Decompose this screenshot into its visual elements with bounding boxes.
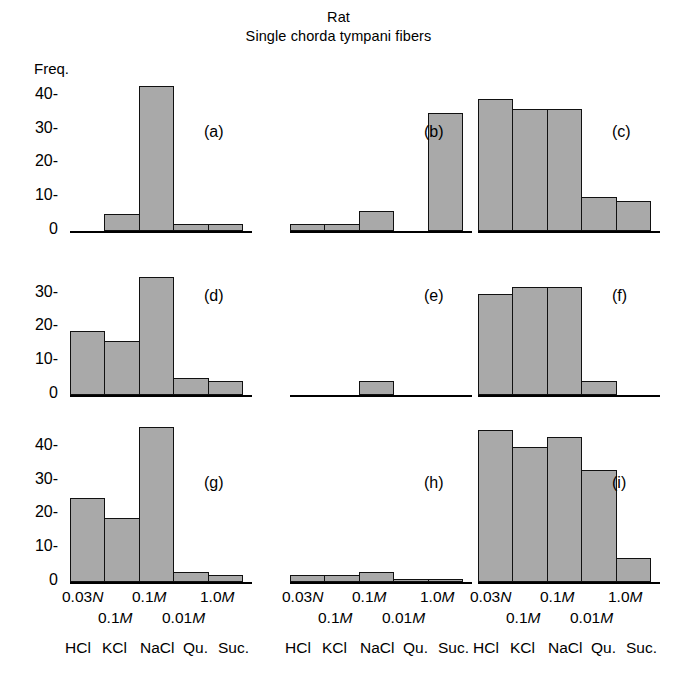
y-tick-0: 0 [16,220,58,238]
panel-a-bar-kcl [104,214,139,231]
y-tick-0: 0 [16,571,58,589]
x-stimulus-kcl: KCl [510,639,535,657]
panel-c-baseline [478,231,660,233]
title-line-subtitle: Single chorda tympani fibers [0,27,677,46]
panel-e-baseline [290,395,472,397]
panel-f-bar-hcl [478,294,513,395]
panel-i-label: (i) [612,474,626,492]
panel-g-bar-kcl [104,518,139,582]
panel-b-bar-hcl [290,224,325,231]
x-stimulus-hcl: HCl [65,639,91,657]
x-stimulus-suc: Suc. [438,639,469,657]
x-conc-label-4: 0.01M [162,609,205,627]
panel-d-bar-nacl [139,277,174,395]
x-stimulus-hcl: HCl [473,639,499,657]
panel-i-bar-nacl [547,437,582,582]
panel-h-baseline [290,582,472,584]
y-axis-label: Freq. [34,60,69,77]
x-stimulus-suc: Suc. [626,639,657,657]
y-tick-20: 20- [16,503,58,521]
panel-g-label: (g) [204,474,224,492]
x-conc-label-3: 0.1M [132,588,166,606]
panel-g-baseline [70,582,252,584]
x-conc-label-1: 0.03N [62,588,103,606]
title-line-species: Rat [0,8,677,27]
panel-i-bar-hcl [478,430,513,582]
panel-f-bar-kcl [512,287,547,395]
x-stimulus-qu: Qu. [183,639,208,657]
panel-a-bar-nacl [139,86,174,231]
panel-h-label: (h) [424,474,444,492]
panel-h-bar-hcl [290,575,325,582]
y-tick-30: 30- [16,283,58,301]
y-tick-40: 40- [16,85,58,103]
panel-a-bar-suc [208,224,243,231]
panel-d-bar-suc [208,381,243,395]
panel-d-baseline [70,395,252,397]
panel-g-bar-suc [208,575,243,582]
x-conc-label-4: 0.01M [570,609,613,627]
y-tick-10: 10- [16,186,58,204]
panel-b-bar-kcl [324,224,359,231]
panel-c-bar-nacl [547,109,582,231]
panel-h-bar-kcl [324,575,359,582]
x-conc-label-5: 1.0M [420,588,454,606]
x-conc-label-2: 0.1M [318,609,352,627]
y-tick-40: 40- [16,436,58,454]
panel-d-label: (d) [204,287,224,305]
panel-c-bar-kcl [512,109,547,231]
x-conc-label-3: 0.1M [352,588,386,606]
panel-g-bar-hcl [70,498,105,583]
panel-h-bar-qu [393,579,428,582]
panel-f-bar-nacl [547,287,582,395]
x-conc-label-2: 0.1M [506,609,540,627]
panel-f-label: (f) [612,287,627,305]
panel-c-label: (c) [612,123,631,141]
panel-c-bar-hcl [478,99,513,231]
panel-c-bar-qu [581,197,616,231]
x-conc-label-2: 0.1M [98,609,132,627]
panel-f-baseline [478,395,660,397]
x-conc-label-1: 0.03N [282,588,323,606]
y-tick-0: 0 [16,384,58,402]
panel-i-bar-suc [616,558,651,582]
panel-f-bar-qu [581,381,616,395]
panel-d-bar-hcl [70,331,105,395]
x-stimulus-qu: Qu. [591,639,616,657]
y-tick-10: 10- [16,537,58,555]
figure-canvas: Rat Single chorda tympani fibers Freq. 4… [0,0,677,697]
x-stimulus-nacl: NaCl [548,639,582,657]
panel-i-baseline [478,582,660,584]
panel-h-bar-nacl [359,572,394,582]
panel-d-bar-kcl [104,341,139,395]
panel-e-bar-nacl [359,381,394,395]
x-conc-label-5: 1.0M [200,588,234,606]
y-tick-30: 30- [16,119,58,137]
y-tick-30: 30- [16,470,58,488]
panel-a-label: (a) [204,123,224,141]
x-stimulus-hcl: HCl [285,639,311,657]
x-stimulus-nacl: NaCl [360,639,394,657]
panel-g-bar-qu [173,572,208,582]
panel-h-bar-suc [428,579,463,582]
panel-b-baseline [290,231,472,233]
panel-g-bar-nacl [139,427,174,582]
x-stimulus-kcl: KCl [322,639,347,657]
panel-e-label: (e) [424,287,444,305]
x-conc-label-1: 0.03N [470,588,511,606]
panel-d-bar-qu [173,378,208,395]
x-conc-label-5: 1.0M [608,588,642,606]
panel-a-bar-qu [173,224,208,231]
x-stimulus-nacl: NaCl [140,639,174,657]
x-stimulus-suc: Suc. [218,639,249,657]
x-stimulus-kcl: KCl [102,639,127,657]
panel-a-baseline [70,231,252,233]
x-stimulus-qu: Qu. [403,639,428,657]
panel-b-bar-nacl [359,211,394,231]
y-tick-20: 20- [16,316,58,334]
panel-i-bar-kcl [512,447,547,582]
y-tick-20: 20- [16,152,58,170]
y-tick-10: 10- [16,350,58,368]
x-conc-label-3: 0.1M [540,588,574,606]
x-conc-label-4: 0.01M [382,609,425,627]
